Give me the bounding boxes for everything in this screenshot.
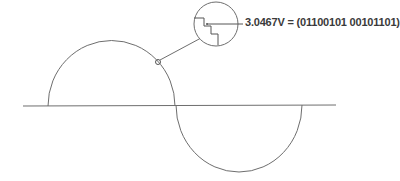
voltage-binary-annotation: 3.0467V = (01100101 00101101): [245, 16, 400, 28]
time-axis: [23, 105, 336, 106]
waveform-positive-half: [48, 41, 175, 106]
pointer-dot: [206, 23, 208, 25]
waveform-negative-half: [176, 105, 302, 172]
leader-line: [160, 38, 201, 60]
